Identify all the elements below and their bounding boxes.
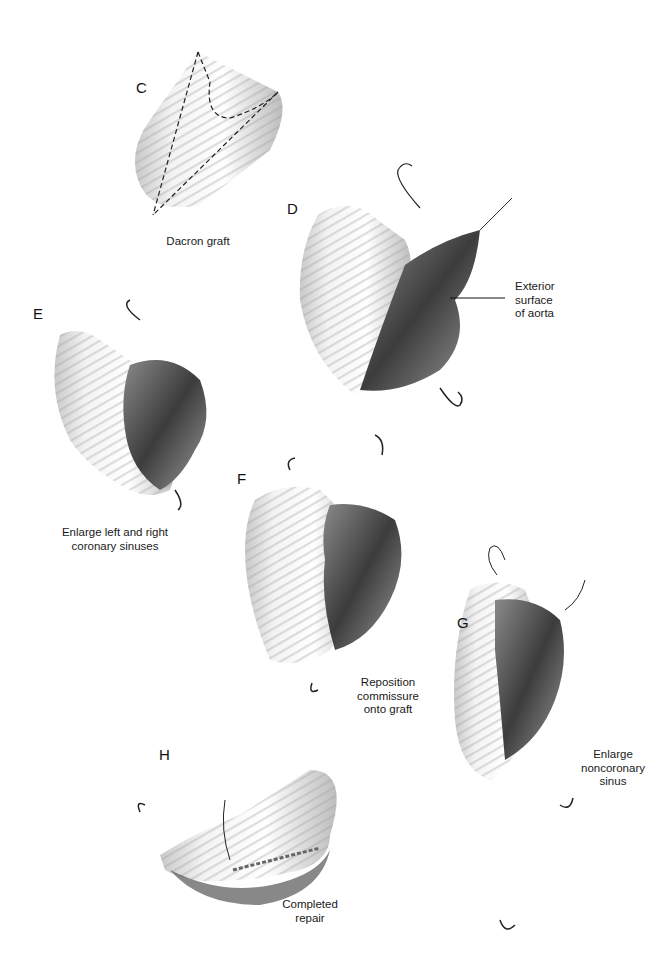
panel-letter-c: C bbox=[136, 79, 147, 96]
panel-letter-h: H bbox=[159, 746, 170, 763]
caption-g-line-2: noncoronary bbox=[573, 762, 653, 776]
panel-e-illustration bbox=[54, 300, 206, 510]
caption-g-line-3: sinus bbox=[573, 775, 653, 789]
caption-h: Completed repair bbox=[270, 898, 350, 925]
caption-g-line-1: Enlarge bbox=[573, 748, 653, 762]
caption-f-line-1: Reposition bbox=[348, 676, 428, 690]
caption-h-line-2: repair bbox=[270, 912, 350, 926]
caption-d-line-3: of aorta bbox=[515, 307, 585, 321]
panel-letter-d: D bbox=[287, 200, 298, 217]
caption-e-line-1: Enlarge left and right bbox=[40, 526, 190, 540]
caption-f-line-3: onto graft bbox=[348, 703, 428, 717]
caption-e: Enlarge left and right coronary sinuses bbox=[40, 526, 190, 553]
caption-d-line-1: Exterior bbox=[515, 280, 585, 294]
caption-h-line-1: Completed bbox=[270, 898, 350, 912]
surgical-illustration bbox=[0, 0, 666, 969]
caption-d-line-2: surface bbox=[515, 294, 585, 308]
caption-e-line-2: coronary sinuses bbox=[40, 540, 190, 554]
caption-f-line-2: commissure bbox=[348, 690, 428, 704]
panel-f-illustration bbox=[245, 435, 401, 691]
caption-g: Enlarge noncoronary sinus bbox=[573, 748, 653, 789]
caption-c-line-1: Dacron graft bbox=[138, 235, 258, 249]
caption-f: Reposition commissure onto graft bbox=[348, 676, 428, 717]
caption-c: Dacron graft bbox=[138, 235, 258, 249]
panel-d-illustration bbox=[300, 164, 512, 406]
panel-letter-e: E bbox=[33, 305, 43, 322]
panel-letter-f: F bbox=[237, 470, 246, 487]
panel-g-illustration bbox=[454, 546, 585, 929]
panel-h-illustration bbox=[138, 770, 336, 905]
panel-c-graft bbox=[135, 52, 283, 215]
panel-letter-g: G bbox=[457, 614, 469, 631]
caption-d: Exterior surface of aorta bbox=[515, 280, 585, 321]
